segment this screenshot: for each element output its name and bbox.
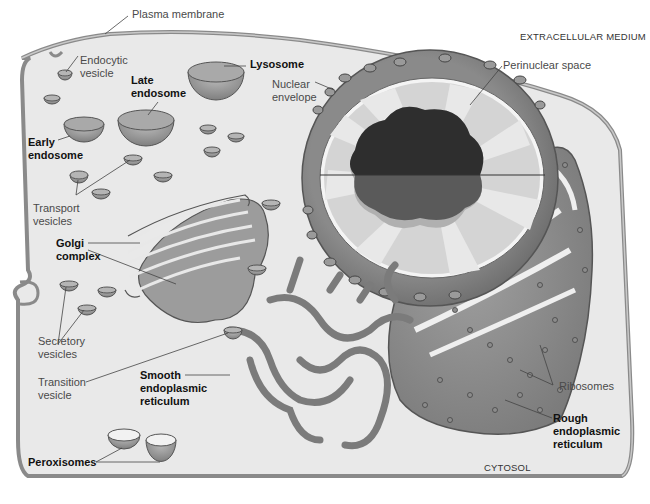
label-smooth-er: Smooth endoplasmic reticulum — [140, 369, 207, 408]
label-ribosomes: Ribosomes — [559, 380, 614, 393]
label-peroxisomes: Peroxisomes — [28, 456, 96, 469]
label-golgi-complex: Golgi complex — [56, 237, 101, 263]
cell-diagram: Plasma membrane Extracellular Medium End… — [0, 0, 650, 504]
label-lysosome: Lysosome — [250, 58, 304, 71]
label-rough-er: Rough endoplasmic reticulum — [553, 412, 620, 451]
label-transport-vesicles: Transport vesicles — [33, 202, 80, 228]
nucleus — [302, 50, 558, 306]
label-cytosol: Cytosol — [484, 461, 531, 474]
label-early-endosome: Early endosome — [28, 136, 83, 162]
label-secretory-vesicles: Secretory vesicles — [38, 335, 85, 361]
label-extracellular-medium: Extracellular Medium — [520, 30, 646, 43]
label-transition-vesicle: Transition vesicle — [38, 376, 86, 402]
label-nuclear-envelope: Nuclear envelope — [272, 78, 317, 104]
label-endocytic-vesicle: Endocytic vesicle — [80, 54, 128, 80]
label-perinuclear-space: Perinuclear space — [503, 59, 591, 72]
label-late-endosome: Late endosome — [131, 74, 186, 100]
label-plasma-membrane: Plasma membrane — [132, 8, 224, 21]
